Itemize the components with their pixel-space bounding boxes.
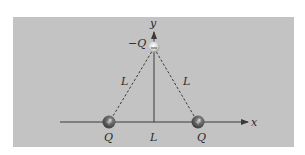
charge-triangle-diagram: x y L L L −Q Q Q [0, 0, 305, 155]
charge-top-label: −Q [128, 37, 146, 50]
side-right-label: L [182, 75, 190, 88]
x-axis-label: x [251, 116, 258, 129]
base-label: L [149, 131, 157, 144]
charge-right-label: Q [197, 131, 206, 144]
charge-left-positive [103, 116, 116, 129]
side-left-label: L [120, 75, 128, 88]
charge-top-negative [149, 42, 160, 53]
charge-left-label: Q [104, 131, 113, 144]
y-axis-label: y [149, 17, 157, 30]
charge-right-positive [192, 116, 205, 129]
